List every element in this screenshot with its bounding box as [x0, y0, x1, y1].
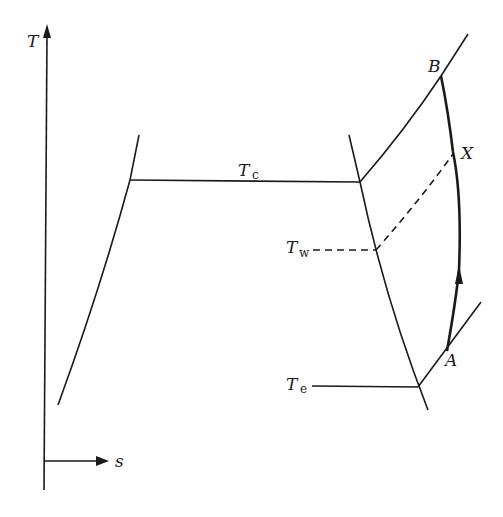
svg-text:T: T [286, 374, 299, 394]
compression-curve [441, 76, 460, 351]
svg-text:T: T [286, 237, 299, 257]
condensing-pressure-superheat-line [360, 34, 468, 182]
tc-label: T c [238, 160, 259, 182]
compression-direction-arrow-icon [455, 265, 463, 284]
tw-label: T w [286, 237, 310, 260]
ts-diagram-svg: T s T c T w T e [0, 0, 503, 517]
svg-text:c: c [252, 168, 259, 182]
entropy-axis [44, 456, 109, 466]
ts-diagram: T s T c T w T e [0, 0, 503, 517]
condensing-isotherm [130, 180, 360, 182]
point-a-label: A [443, 350, 457, 370]
temperature-axis [43, 24, 51, 490]
saturated-liquid-line [58, 135, 139, 405]
svg-text:w: w [299, 246, 310, 260]
evaporating-pressure-superheat-line [418, 302, 481, 387]
svg-text:T: T [238, 160, 251, 180]
point-b-label: B [427, 56, 441, 76]
wall-temp-dashed-curve [376, 154, 453, 250]
axis-arrow-icon [96, 456, 109, 466]
point-x-label: X [459, 143, 474, 163]
saturated-vapor-line [349, 135, 428, 410]
axis-arrow-icon [43, 24, 51, 38]
svg-text:e: e [300, 382, 307, 396]
te-label: T e [286, 374, 307, 396]
s-axis-label: s [115, 451, 124, 471]
t-axis-label: T [27, 31, 40, 51]
evaporating-isotherm [312, 386, 418, 387]
